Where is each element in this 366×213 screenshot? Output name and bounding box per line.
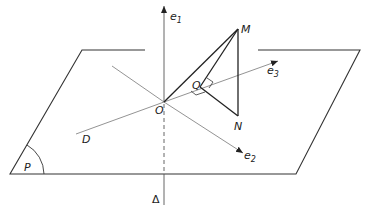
label-e1: e1 bbox=[170, 10, 182, 25]
label-p: P bbox=[24, 161, 31, 174]
label-m: M bbox=[241, 23, 251, 36]
label-d: D bbox=[82, 133, 90, 146]
line-d bbox=[76, 102, 164, 134]
axis-e2 bbox=[164, 102, 243, 153]
label-e3: e3 bbox=[267, 64, 279, 79]
label-delta: Δ bbox=[152, 193, 160, 206]
plane-p bbox=[10, 50, 360, 174]
geometry-diagram: e1 e2 e3 M N Q O D P Δ bbox=[0, 0, 366, 213]
triangle-omn bbox=[164, 29, 238, 116]
axis-e3 bbox=[164, 61, 278, 102]
line-up-left bbox=[112, 66, 164, 102]
diagram-svg: e1 e2 e3 M N Q O D P Δ bbox=[0, 0, 366, 213]
label-o: O bbox=[155, 104, 164, 117]
label-q: Q bbox=[192, 79, 201, 92]
label-e2: e2 bbox=[244, 149, 256, 164]
label-n: N bbox=[234, 120, 242, 133]
